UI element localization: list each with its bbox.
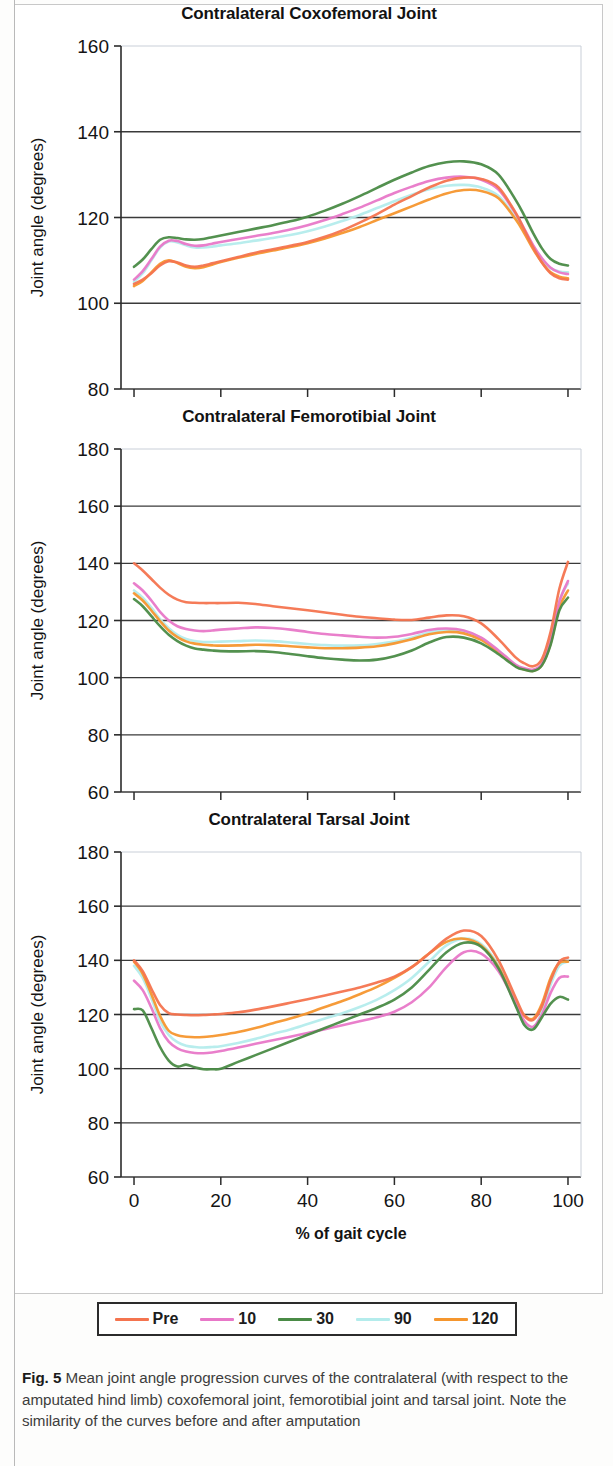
figure-label: Fig. 5 xyxy=(22,1369,61,1386)
legend-swatch-icon-10 xyxy=(200,1318,234,1321)
y-tick-label: 140 xyxy=(77,950,109,971)
y-tick-label: 160 xyxy=(77,496,109,517)
legend-swatch-icon-90 xyxy=(356,1318,390,1321)
chart-title-tarsal: Contralateral Tarsal Joint xyxy=(15,810,603,830)
legend-box: Pre103090120 xyxy=(97,1302,517,1336)
legend-item-30: 30 xyxy=(278,1311,334,1327)
x-tick-label: 0 xyxy=(129,1190,140,1211)
legend: Pre103090120 xyxy=(0,1302,613,1336)
chart-title-coxofemoral: Contralateral Coxofemoral Joint xyxy=(15,4,603,24)
y-tick-label: 120 xyxy=(77,1005,109,1026)
legend-item-90: 90 xyxy=(356,1311,412,1327)
legend-swatch-icon-pre xyxy=(115,1318,149,1321)
figure-caption-text: Mean joint angle progression curves of t… xyxy=(22,1369,568,1429)
legend-label: Pre xyxy=(153,1311,179,1327)
chart-title-femorotibial: Contralateral Femorotibial Joint xyxy=(15,407,603,427)
y-tick-label: 100 xyxy=(77,668,109,689)
chart-svg-femorotibial: 6080100120140160180Joint angle (degrees) xyxy=(15,427,603,810)
x-axis-title: % of gait cycle xyxy=(295,1225,406,1242)
legend-swatch-icon-30 xyxy=(278,1318,312,1321)
y-tick-label: 100 xyxy=(77,1059,109,1080)
y-tick-label: 140 xyxy=(77,553,109,574)
y-axis-title: Joint angle (degrees) xyxy=(28,935,47,1095)
legend-item-pre: Pre xyxy=(115,1311,179,1327)
y-tick-label: 100 xyxy=(77,293,109,314)
plot-area-coxofemoral: 80100120140160Joint angle (degrees) xyxy=(15,24,603,407)
y-tick-label: 180 xyxy=(77,439,109,460)
y-tick-label: 60 xyxy=(88,782,109,803)
figure-caption: Fig. 5 Mean joint angle progression curv… xyxy=(22,1367,600,1432)
legend-item-10: 10 xyxy=(200,1311,256,1327)
plot-area-tarsal: 6080100120140160180020406080100Joint ang… xyxy=(15,830,603,1255)
x-tick-label: 20 xyxy=(210,1190,231,1211)
legend-swatch-icon-120 xyxy=(434,1318,468,1321)
figure-page: Contralateral Coxofemoral Joint 80100120… xyxy=(0,0,613,1466)
legend-label: 30 xyxy=(316,1311,334,1327)
y-axis-title: Joint angle (degrees) xyxy=(28,138,47,298)
chart-svg-tarsal: 6080100120140160180020406080100Joint ang… xyxy=(15,830,603,1255)
plot-area-femorotibial: 6080100120140160180Joint angle (degrees) xyxy=(15,427,603,810)
y-tick-label: 80 xyxy=(88,379,109,400)
legend-label: 120 xyxy=(472,1311,499,1327)
chart-svg-coxofemoral: 80100120140160Joint angle (degrees) xyxy=(15,24,603,407)
x-tick-label: 80 xyxy=(471,1190,492,1211)
y-tick-label: 120 xyxy=(77,208,109,229)
legend-label: 10 xyxy=(238,1311,256,1327)
chart-femorotibial: Contralateral Femorotibial Joint 6080100… xyxy=(15,407,603,810)
y-tick-label: 140 xyxy=(77,122,109,143)
chart-coxofemoral: Contralateral Coxofemoral Joint 80100120… xyxy=(15,4,603,407)
y-tick-label: 80 xyxy=(88,725,109,746)
x-tick-label: 40 xyxy=(297,1190,318,1211)
y-tick-label: 160 xyxy=(77,36,109,57)
y-axis-title: Joint angle (degrees) xyxy=(28,541,47,701)
legend-item-120: 120 xyxy=(434,1311,499,1327)
x-tick-label: 60 xyxy=(384,1190,405,1211)
legend-label: 90 xyxy=(394,1311,412,1327)
y-tick-label: 80 xyxy=(88,1113,109,1134)
chart-tarsal: Contralateral Tarsal Joint 6080100120140… xyxy=(15,810,603,1255)
y-tick-label: 120 xyxy=(77,611,109,632)
y-tick-label: 180 xyxy=(77,842,109,863)
y-tick-label: 60 xyxy=(88,1167,109,1188)
y-tick-label: 160 xyxy=(77,896,109,917)
x-tick-label: 100 xyxy=(552,1190,584,1211)
charts-stack: Contralateral Coxofemoral Joint 80100120… xyxy=(15,4,603,1255)
